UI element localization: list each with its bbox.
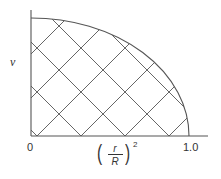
fraction-denominator: R — [110, 156, 120, 167]
exponent: 2 — [133, 140, 137, 149]
x-tick-1: 1.0 — [183, 142, 198, 153]
fraction-numerator: r — [110, 143, 120, 154]
x-tick-0: 0 — [27, 142, 33, 153]
hatched-region — [31, 18, 189, 136]
left-paren: ( — [97, 142, 102, 164]
y-axis-label: v — [10, 56, 15, 68]
fraction-bar — [108, 154, 123, 155]
x-axis-label: ( r R ) 2 — [97, 141, 141, 167]
right-paren: ) — [125, 142, 130, 164]
